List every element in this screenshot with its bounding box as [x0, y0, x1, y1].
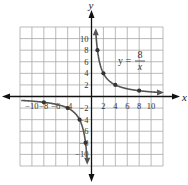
curve-arrow-up-icon: [93, 28, 99, 35]
x-tick-label: 4: [113, 101, 118, 111]
equation-lhs: y =: [118, 55, 132, 66]
curve-arrow-down-icon: [84, 158, 90, 165]
data-point: [77, 118, 81, 122]
x-axis-arrow-right-icon: [172, 94, 180, 100]
x-tick-label: 8: [137, 101, 141, 111]
data-point: [101, 71, 105, 75]
x-tick-label: 2: [101, 101, 105, 111]
equation-denominator: x: [137, 61, 143, 72]
data-point: [113, 83, 117, 87]
y-axis-arrow-up-icon: [89, 10, 95, 18]
x-tick-label: 6: [125, 101, 129, 111]
data-point: [137, 89, 141, 93]
x-tick-label: 10: [147, 101, 156, 111]
y-axis-label: y: [88, 0, 94, 11]
y-axis-arrow-down-icon: [89, 174, 95, 182]
y-tick-label: 8: [84, 45, 88, 55]
y-tick-label: 2: [84, 80, 88, 90]
data-point: [83, 141, 87, 145]
data-point: [42, 100, 46, 104]
equation-numerator: 8: [138, 49, 143, 60]
data-point: [66, 106, 70, 110]
y-tick-label: −2: [79, 103, 88, 113]
y-tick-label: 10: [80, 34, 89, 44]
data-point: [95, 48, 99, 52]
graph: xy−10−8−6−4246810108642−2−4−6−8−10y =8x: [0, 0, 188, 185]
y-tick-label: 6: [84, 57, 88, 67]
x-axis-arrow-left-icon: [2, 94, 10, 100]
x-axis-label: x: [181, 91, 187, 103]
